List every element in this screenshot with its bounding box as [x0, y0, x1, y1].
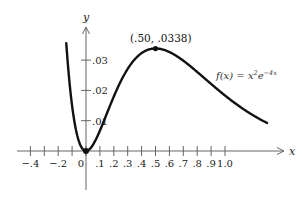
x-axis: x −.4−.20.1.2.3.4.5.6.7.8.91.0 — [17, 145, 296, 169]
x-tick-label: .2 — [109, 158, 119, 169]
x-tick-label: .3 — [123, 158, 133, 169]
x-tick-label: −.2 — [49, 158, 67, 169]
maximum-point-marker — [153, 46, 158, 51]
y-tick-label: .03 — [92, 55, 108, 66]
x-tick-label: .4 — [137, 158, 147, 169]
minimum-point-marker — [83, 148, 89, 154]
x-tick-label: 0 — [78, 158, 84, 169]
x-axis-label: x — [289, 145, 296, 158]
function-label: f(x) = x2e−4x — [215, 69, 277, 81]
x-tick-label: .8 — [192, 158, 202, 169]
x-tick-label: .7 — [179, 158, 189, 169]
maximum-point-label: (.50, .0338) — [130, 32, 192, 44]
x-tick-label: .1 — [95, 158, 105, 169]
x-tick-label: −.4 — [21, 158, 39, 169]
chart: x −.4−.20.1.2.3.4.5.6.7.8.91.0 y .01.02.… — [0, 0, 305, 198]
y-tick-label: .02 — [92, 85, 108, 96]
x-tick-label: .9 — [206, 158, 216, 169]
x-tick-label: 1.0 — [217, 158, 233, 169]
x-axis-tick-labels: −.4−.20.1.2.3.4.5.6.7.8.91.0 — [21, 158, 233, 169]
x-tick-label: .6 — [165, 158, 175, 169]
x-tick-label: .5 — [151, 158, 161, 169]
y-axis-label: y — [82, 11, 90, 24]
